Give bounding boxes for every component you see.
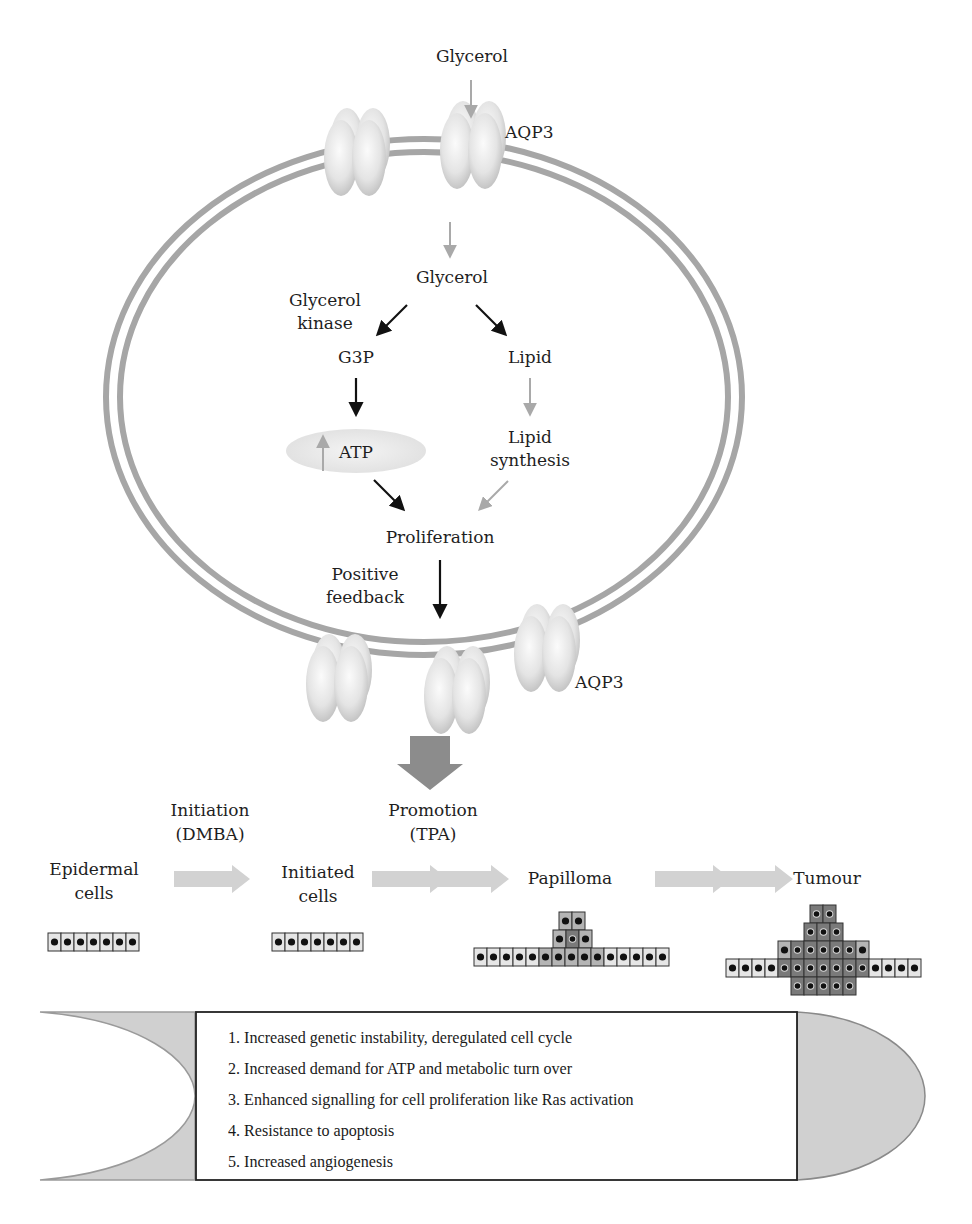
- initiated-cell-row: [272, 933, 363, 951]
- stage-arrow-progression-2: [717, 865, 793, 893]
- glycerol-kinase-label-line1: Glycerol: [289, 290, 361, 310]
- aqp3-channel-bottom-left: [306, 634, 372, 722]
- lipid-synthesis-label-line2: synthesis: [490, 450, 570, 470]
- aqp3-channel-top-right: [440, 101, 506, 189]
- tumour-label: Tumour: [793, 868, 862, 888]
- initiation-label-line1: Initiation: [171, 800, 250, 820]
- left-concave-shape: [40, 1012, 195, 1180]
- initiated-cells-label-line2: cells: [298, 886, 337, 906]
- feature-item: 2. Increased demand for ATP and metaboli…: [228, 1053, 743, 1084]
- glycerol-kinase-label-line2: kinase: [297, 313, 353, 333]
- features-list: 1. Increased genetic instability, deregu…: [228, 1022, 743, 1177]
- epidermal-cells-label-line2: cells: [74, 883, 113, 903]
- feature-item: 5. Increased angiogenesis: [228, 1146, 743, 1177]
- right-convex-shape: [797, 1012, 925, 1180]
- promotion-label-line1: Promotion: [388, 800, 478, 820]
- stage-arrow-promotion-2: [433, 865, 509, 893]
- cell-membrane: [106, 139, 742, 655]
- positive-feedback-label-line2: feedback: [326, 587, 405, 607]
- arrow-glycerol-to-g3p: [378, 305, 407, 334]
- aqp3-label-bottom: AQP3: [574, 672, 623, 692]
- positive-feedback-label-line1: Positive: [331, 564, 398, 584]
- papilloma-cell-cluster: [474, 912, 669, 966]
- arrow-lipid-synthesis-to-proliferation: [480, 481, 508, 509]
- aqp3-label-top: AQP3: [504, 122, 553, 142]
- aqp3-channel-top-left: [324, 108, 390, 196]
- initiation-label-line2: (DMBA): [175, 824, 244, 844]
- feature-item: 4. Resistance to apoptosis: [228, 1115, 743, 1146]
- block-arrow-down-icon: [397, 736, 463, 790]
- stage-arrow-initiation: [174, 865, 250, 893]
- promotion-label-line2: (TPA): [410, 824, 457, 844]
- epidermal-cell-row: [48, 933, 139, 951]
- epidermal-cells-label-line1: Epidermal: [49, 859, 139, 879]
- extracellular-glycerol-label: Glycerol: [436, 46, 508, 66]
- intracellular-glycerol-label: Glycerol: [416, 267, 488, 287]
- lipid-synthesis-label-line1: Lipid: [508, 427, 552, 447]
- g3p-label: G3P: [338, 347, 374, 367]
- feature-item: 1. Increased genetic instability, deregu…: [228, 1022, 743, 1053]
- initiated-cells-label-line1: Initiated: [281, 862, 354, 882]
- arrow-atp-to-proliferation: [374, 480, 403, 509]
- aqp3-channel-bottom-center: [424, 646, 490, 734]
- proliferation-label: Proliferation: [386, 527, 495, 547]
- feature-item: 3. Enhanced signalling for cell prolifer…: [228, 1084, 743, 1115]
- arrow-glycerol-to-lipid: [476, 305, 505, 334]
- aqp3-channel-bottom-right: [514, 604, 580, 692]
- lipid-label: Lipid: [508, 347, 552, 367]
- tumour-cell-cluster: [726, 905, 921, 995]
- atp-label: ATP: [338, 442, 373, 462]
- papilloma-label: Papilloma: [528, 868, 613, 888]
